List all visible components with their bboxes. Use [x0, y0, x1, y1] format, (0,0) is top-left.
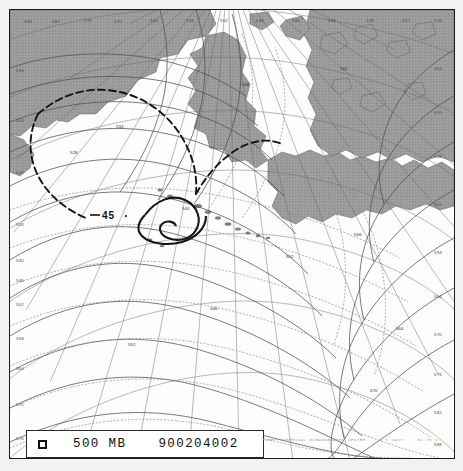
station-marker-icon	[38, 440, 47, 449]
svg-text:570: 570	[114, 19, 122, 24]
svg-text:558: 558	[186, 18, 194, 23]
map-frame: 588 582 576 570 564 558 552 546 540 534 …	[9, 9, 455, 459]
svg-text:552: 552	[128, 342, 136, 347]
attribution-agency: FLEET NUMERICAL OCEANOGRAPHY CENTER	[262, 438, 365, 442]
svg-text:552: 552	[16, 302, 24, 307]
svg-text:528: 528	[70, 150, 78, 155]
svg-text:588: 588	[24, 19, 32, 24]
legend-level-label: 500 MB	[73, 437, 126, 451]
svg-text:534: 534	[328, 18, 336, 23]
svg-text:552: 552	[340, 66, 348, 71]
svg-text:546: 546	[16, 278, 24, 283]
svg-text:588: 588	[434, 442, 442, 447]
svg-text:540: 540	[182, 206, 190, 211]
svg-text:522: 522	[16, 170, 24, 175]
svg-text:522: 522	[402, 18, 410, 23]
svg-text:564: 564	[150, 18, 158, 23]
svg-text:546: 546	[256, 18, 264, 23]
legend-box: 500 MB 900204002	[26, 430, 264, 458]
weather-chart-root: 588 582 576 570 564 558 552 546 540 534 …	[0, 0, 463, 471]
svg-text:558: 558	[434, 154, 442, 159]
svg-text:570: 570	[434, 332, 442, 337]
svg-text:534: 534	[16, 68, 24, 73]
svg-text:534: 534	[116, 124, 124, 129]
svg-text:45: 45	[102, 210, 115, 221]
svg-text:558: 558	[434, 250, 442, 255]
svg-text:564: 564	[434, 294, 442, 299]
svg-text:552: 552	[434, 202, 442, 207]
svg-text:546: 546	[242, 82, 250, 87]
attribution-org: U S NAVY	[380, 438, 404, 442]
svg-text:564: 564	[16, 366, 24, 371]
svg-text:528: 528	[366, 18, 374, 23]
svg-text:564: 564	[396, 326, 404, 331]
svg-text:576: 576	[84, 18, 92, 23]
svg-text:564: 564	[434, 66, 442, 71]
svg-text:540: 540	[16, 258, 24, 263]
legend-time-label: 900204002	[158, 437, 238, 451]
svg-text:576: 576	[434, 372, 442, 377]
svg-text:546: 546	[210, 306, 218, 311]
attribution-coord: 31.75 N	[417, 438, 438, 442]
svg-text:516: 516	[16, 222, 24, 227]
svg-text:576: 576	[16, 436, 24, 441]
svg-text:582: 582	[52, 19, 60, 24]
svg-text:570: 570	[434, 110, 442, 115]
svg-text:582: 582	[434, 410, 442, 415]
map-canvas: 588 582 576 570 564 558 552 546 540 534 …	[10, 10, 454, 458]
svg-text:570: 570	[16, 402, 24, 407]
svg-text:552: 552	[286, 254, 294, 259]
svg-text:558: 558	[16, 336, 24, 341]
svg-text:558: 558	[354, 232, 362, 237]
svg-text:528: 528	[16, 118, 24, 123]
svg-text:570: 570	[370, 388, 378, 393]
svg-text:552: 552	[220, 18, 228, 23]
contour-map-svg: 588 582 576 570 564 558 552 546 540 534 …	[10, 10, 454, 458]
attribution-text: FLEET NUMERICAL OCEANOGRAPHY CENTER U S …	[262, 438, 438, 442]
svg-text:540: 540	[292, 18, 300, 23]
svg-text:516: 516	[434, 18, 442, 23]
